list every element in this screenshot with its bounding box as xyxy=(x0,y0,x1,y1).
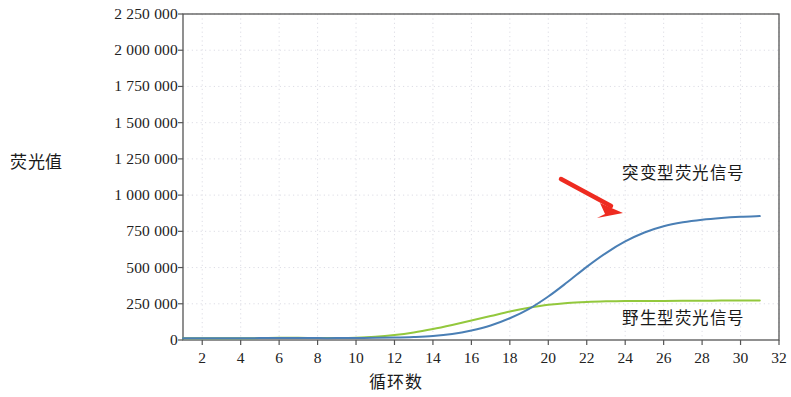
y-axis-title: 荧光值 xyxy=(10,148,63,173)
x-tick-label: 16 xyxy=(464,350,480,366)
x-tick-label: 12 xyxy=(387,350,403,366)
x-tick-label: 24 xyxy=(617,350,633,366)
x-tick-label: 26 xyxy=(656,350,672,366)
x-tick-label: 30 xyxy=(733,350,749,366)
x-tick-label: 14 xyxy=(425,350,441,366)
x-axis-tick-labels: 2468101214161820222426283032 xyxy=(0,0,791,397)
x-tick-label: 20 xyxy=(541,350,557,366)
x-tick-label: 22 xyxy=(579,350,595,366)
x-tick-label: 2 xyxy=(198,350,206,366)
x-tick-label: 4 xyxy=(237,350,245,366)
x-tick-label: 32 xyxy=(771,350,787,366)
x-tick-label: 10 xyxy=(348,350,364,366)
x-tick-label: 8 xyxy=(314,350,322,366)
x-tick-label: 6 xyxy=(275,350,283,366)
mutant-signal-label: 突变型荧光信号 xyxy=(622,160,745,184)
x-tick-label: 28 xyxy=(694,350,710,366)
x-axis-title: 循环数 xyxy=(0,368,791,393)
x-tick-label: 18 xyxy=(502,350,518,366)
fluorescence-amplification-chart: 0250 000500 000750 0001 000 0001 250 000… xyxy=(0,0,791,397)
wild-type-signal-label: 野生型荧光信号 xyxy=(622,305,745,329)
